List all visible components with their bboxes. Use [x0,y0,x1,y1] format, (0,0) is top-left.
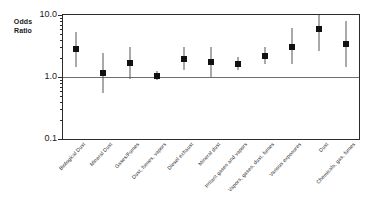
data-point [289,44,295,50]
data-point [73,46,79,52]
data-point [343,41,349,47]
data-point [235,61,241,67]
x-axis-label: Mineral Dust [89,141,114,167]
data-point [208,59,214,65]
y-tick-label: 1.0 [17,71,57,81]
y-axis-title-line: Ratio [2,26,44,35]
data-point [181,56,187,62]
data-point [100,70,106,76]
y-tick-label: 10.0 [17,9,57,19]
x-axis-label: Dust [317,141,329,153]
data-point [316,26,322,32]
plot-area: 10.01.00.1 [62,14,360,140]
x-axis-label: Vapors, gases, dust, fumes [226,141,275,193]
x-axis-label: Diesel exhaust [166,141,195,171]
data-series [63,15,359,139]
y-tick-major [58,139,63,140]
x-axis-label: Biological Dust [58,141,87,171]
data-point [127,60,133,66]
y-axis-title: OddsRatio [2,17,44,35]
x-axis-label: Gases/Fumes [113,141,140,170]
data-point [154,73,160,79]
chart-root: OddsRatio 10.01.00.1 Biological DustMine… [0,0,369,211]
data-point [262,53,268,59]
x-axis-labels: Biological DustMineral DustGases/FumesDu… [0,141,369,211]
error-bar [318,15,319,51]
x-axis-label: Mineral dust [197,141,221,167]
